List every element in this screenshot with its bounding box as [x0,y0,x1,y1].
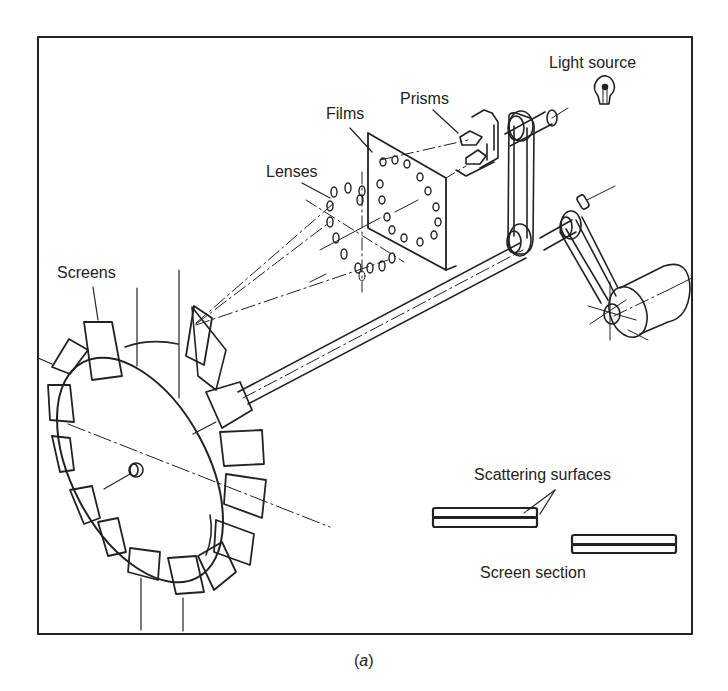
label-films: Films [326,106,364,122]
figure-caption: (a) [354,652,374,670]
label-screen-section: Screen section [480,565,586,581]
label-light-source: Light source [549,55,636,71]
motor [588,264,692,342]
prisms-assembly [456,110,498,176]
label-screens: Screens [57,265,116,281]
screen-section-left [433,508,537,527]
light-bulb-icon [594,76,614,104]
main-shaft [238,220,576,404]
motor-pulley-belt [560,186,618,303]
label-lenses: Lenses [266,164,318,180]
screen-section-right [572,535,676,553]
projection-apparatus-figure: Light source Prisms Films Lenses Screens… [0,0,728,691]
films-plate [368,133,466,270]
screens [48,306,266,594]
upper-pulley-belt [505,108,568,256]
caption-letter: a [359,652,368,669]
leader-lines [93,110,555,514]
diagram-drawing [0,0,728,691]
label-scattering-surfaces: Scattering surfaces [474,467,611,483]
label-prisms: Prisms [400,91,449,107]
caption-close-paren: ) [368,652,373,669]
